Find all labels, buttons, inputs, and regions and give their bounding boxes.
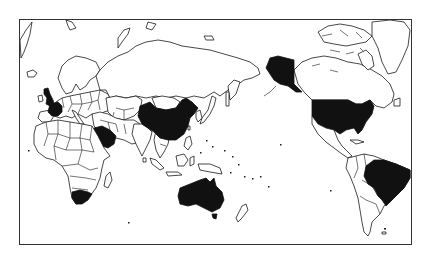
severnaya-zemlya (146, 22, 156, 30)
tasmania (212, 214, 217, 219)
new-guinea (198, 164, 222, 174)
sakhalin (226, 92, 229, 106)
philippines (184, 136, 192, 150)
country-france (48, 102, 62, 116)
new-siberian-islands (204, 36, 214, 40)
japan (200, 96, 216, 124)
novaya-zemlya (118, 28, 130, 48)
world-map (0, 0, 432, 259)
sri-lanka (143, 158, 146, 162)
newfoundland (394, 98, 400, 106)
ireland (38, 95, 43, 102)
new-zealand (236, 204, 248, 222)
scandinavia (58, 56, 100, 94)
iceland (27, 70, 37, 77)
map-svg (0, 0, 432, 259)
country-south-africa (72, 190, 92, 204)
madagascar (104, 172, 112, 188)
greenland (372, 20, 410, 74)
aleutian-islands (264, 86, 276, 96)
borneo (176, 154, 188, 166)
caribbean (350, 140, 364, 144)
greenland-west-fragment (20, 22, 32, 58)
country-australia (178, 178, 224, 212)
sulawesi (190, 156, 194, 166)
falkland-islands (382, 232, 386, 234)
java (166, 172, 182, 176)
svalbard (66, 20, 76, 30)
taiwan (188, 126, 190, 130)
sumatra (150, 158, 164, 170)
